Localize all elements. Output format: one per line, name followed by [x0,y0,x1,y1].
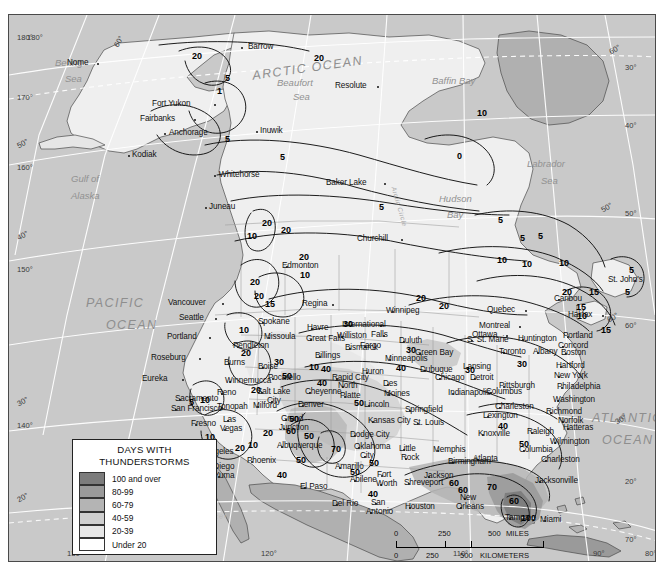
map-legend[interactable]: DAYS WITH THUNDERSTORMS 100 and over80-9… [72,439,217,555]
legend-row-label: 100 and over [112,474,161,484]
scale-km-500: 500 [460,551,473,560]
scale-km-unit: KILOMETERS [480,551,529,560]
scale-miles-0: 0 [394,529,398,538]
scale-tick-mid [445,541,446,548]
scale-bar-line [396,541,544,548]
scale-miles-unit: MILES [506,529,529,538]
legend-swatch [79,498,105,511]
scale-km-0: 0 [394,551,398,560]
legend-swatch [79,512,105,525]
legend-title-line2: THUNDERSTORMS [73,456,216,468]
legend-title-line1: DAYS WITH [73,444,216,456]
scale-bar: 0 250 500 MILES 0 250 500 KILOMETERS [394,527,574,562]
legend-swatch [79,472,105,485]
legend-row[interactable]: 40-59 [79,512,216,525]
legend-row-label: 20-39 [112,526,133,536]
legend-row[interactable]: 60-79 [79,498,216,511]
legend-row[interactable]: Under 20 [79,538,216,551]
legend-swatch [79,485,105,498]
scale-km-250: 250 [426,551,439,560]
legend-row[interactable]: 20-39 [79,525,216,538]
legend-row-label: 80-99 [112,487,133,497]
map-frame[interactable]: ARCTIC OCEANBeaufortSeaBeringSeaGulf ofA… [8,14,656,562]
scale-miles-500: 500 [488,529,501,538]
legend-row[interactable]: 100 and over [79,472,216,485]
legend-swatch [79,525,105,538]
legend-swatch [79,538,105,551]
legend-row-label: 60-79 [112,500,133,510]
scale-tick-km500 [471,541,472,548]
legend-row[interactable]: 80-99 [79,485,216,498]
screenshot-root: ARCTIC OCEANBeaufortSeaBeringSeaGulf ofA… [0,0,664,582]
scale-miles-250: 250 [438,529,451,538]
legend-rows: 100 and over80-9960-7940-5920-39Under 20 [79,472,216,551]
legend-row-label: 40-59 [112,513,133,523]
legend-row-label: Under 20 [112,540,146,550]
